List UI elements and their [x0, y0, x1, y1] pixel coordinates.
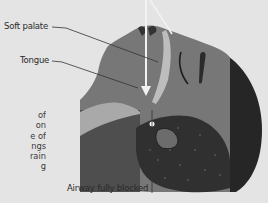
text-line: rain	[0, 151, 46, 161]
text-line: ngs	[0, 141, 46, 151]
text-line: e of	[0, 131, 46, 141]
text-line: on	[0, 120, 46, 130]
hair-region	[228, 56, 262, 192]
text-line: g	[0, 161, 46, 171]
text-line: of	[0, 110, 46, 120]
airway-diagram: Soft palate Tongue Airway fully blocked …	[0, 0, 268, 203]
label-tongue: Tongue	[20, 55, 49, 65]
label-airway-blocked: Airway fully blocked	[67, 183, 148, 193]
label-soft-palate: Soft palate	[4, 21, 48, 31]
body-text-fragment: of on e of ngs rain g	[0, 110, 46, 172]
